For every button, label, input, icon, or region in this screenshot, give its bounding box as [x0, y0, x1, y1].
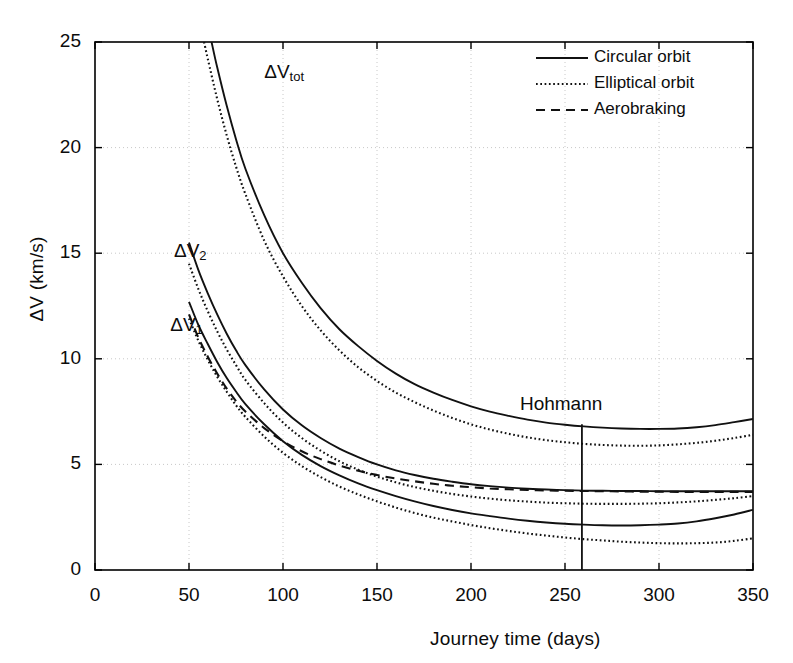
legend-label-dotted: Elliptical orbit [594, 73, 694, 93]
x-axis-title: Journey time (days) [430, 628, 601, 649]
x-tick-label-300: 300 [619, 584, 699, 606]
y-tick-label-0: 0 [9, 558, 81, 580]
legend-label-solid: Circular orbit [594, 47, 690, 67]
dv-tot-label: ΔVtot [264, 61, 304, 84]
x-tick-label-150: 150 [337, 584, 417, 606]
curve-dv-1-aerobraking [189, 314, 753, 491]
curve-dv-1-elliptical [189, 319, 753, 544]
y-tick-label-20: 20 [9, 136, 81, 158]
y-axis-title-wrap: ΔV (km/s) [26, 184, 48, 374]
dv1-label: ΔV1 [170, 314, 203, 337]
x-tick-label-350: 350 [713, 584, 793, 606]
x-tick-label-100: 100 [243, 584, 323, 606]
y-tick-label-15: 15 [9, 241, 81, 263]
x-tick-label-200: 200 [431, 584, 511, 606]
x-tick-label-50: 50 [149, 584, 229, 606]
y-tick-label-10: 10 [9, 347, 81, 369]
x-tick-label-0: 0 [55, 584, 135, 606]
y-tick-label-5: 5 [9, 452, 81, 474]
y-tick-label-25: 25 [9, 30, 81, 52]
chart-figure: ΔV (km/s) Journey time (days) 0510152025… [0, 0, 793, 663]
legend-sample-lines [536, 58, 588, 110]
x-axis-title-wrap: Journey time (days) [430, 628, 730, 650]
dv2-label: ΔV2 [174, 240, 207, 263]
legend-label-dashed: Aerobraking [594, 99, 686, 119]
x-tick-label-250: 250 [525, 584, 605, 606]
hohmann-annotation-label: Hohmann [520, 393, 602, 415]
curve-dv-2-elliptical [189, 264, 753, 504]
